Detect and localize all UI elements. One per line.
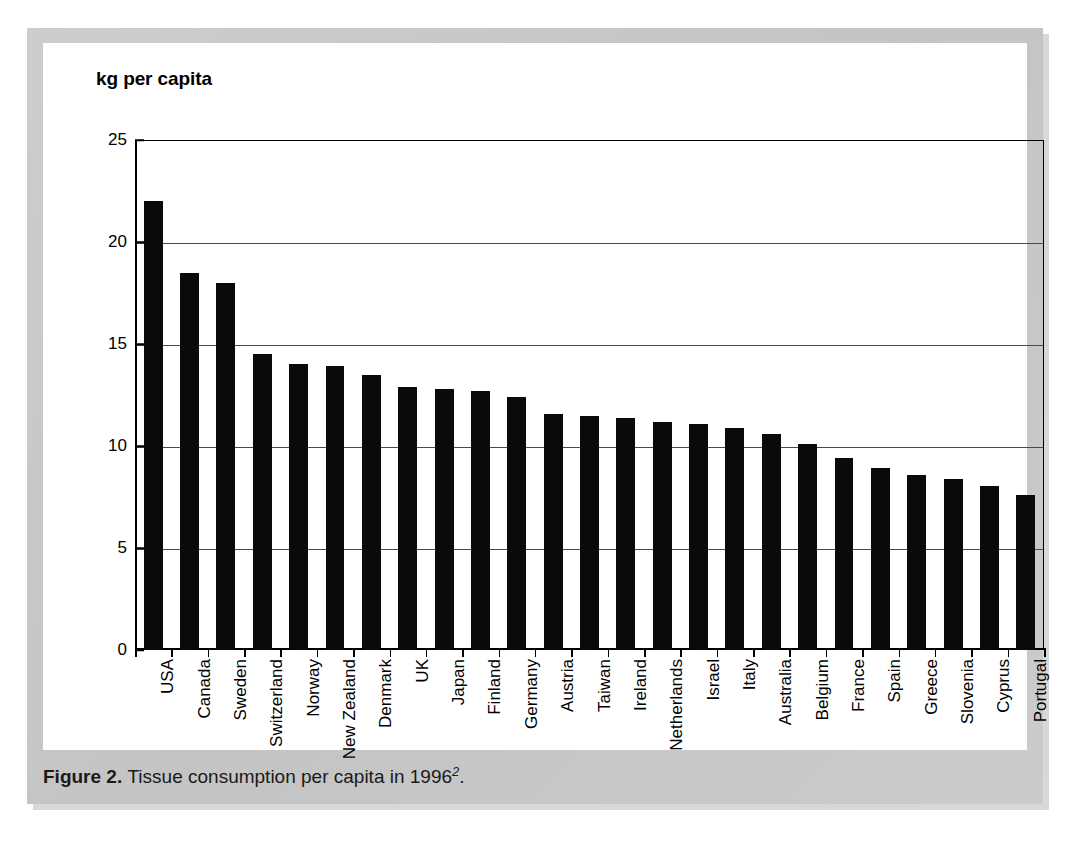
x-axis-label-norway: Norway [305,659,322,717]
bar-belgium [798,444,817,650]
x-axis-label-germany: Germany [523,659,540,729]
x-axis-label-switzerland: Switzerland [268,659,285,747]
x-tick-mark-8 [426,648,428,657]
x-tick-mark-20 [862,648,864,657]
x-tick-mark-23 [971,648,973,657]
x-tick-mark-1 [171,648,173,657]
x-axis-label-greece: Greece [923,659,940,715]
bar-ireland [616,418,635,650]
figure-frame: kg per capita 0510152025 USACanadaSweden… [27,28,1043,804]
x-axis-label-netherlands: Netherlands [668,659,685,751]
x-axis-label-france: France [850,659,867,712]
bar-japan [435,389,454,650]
x-axis-label-canada: Canada [196,659,213,719]
caption-label: Figure 2. [43,766,122,787]
x-tick-mark-6 [353,648,355,657]
x-axis-label-new-zealand: New Zealand [341,659,358,759]
y-tick-label-25: 25 [108,130,127,150]
x-axis-label-usa: USA [159,659,176,694]
x-axis-label-uk: UK [414,659,431,683]
bar-denmark [362,375,381,650]
bar-greece [907,475,926,650]
x-axis-label-portugal: Portugal [1032,659,1049,722]
bar-sweden [216,283,235,650]
x-tick-mark-14 [644,648,646,657]
x-axis-label-belgium: Belgium [814,659,831,720]
bar-israel [689,424,708,650]
bar-canada [180,273,199,650]
chart-panel: kg per capita 0510152025 USACanadaSweden… [43,43,1027,750]
x-tick-mark-21 [899,648,901,657]
x-tick-mark-2 [208,648,210,657]
bar-uk [398,387,417,650]
x-tick-mark-10 [499,648,501,657]
x-axis-label-italy: Italy [741,659,758,690]
caption-end: . [459,766,464,787]
x-axis-label-cyprus: Cyprus [995,659,1012,713]
bar-italy [725,428,744,650]
bar-austria [544,414,563,650]
figure-caption: Figure 2. Tissue consumption per capita … [43,764,1027,788]
bar-series [135,140,1044,650]
x-axis-label-denmark: Denmark [377,659,394,728]
x-axis-label-sweden: Sweden [232,659,249,720]
caption-text: Tissue consumption per capita in 1996 [127,766,452,787]
y-tick-label-5: 5 [118,538,127,558]
bar-slovenia [944,479,963,650]
bar-australia [762,434,781,650]
x-axis-label-japan: Japan [450,659,467,705]
x-tick-mark-4 [280,648,282,657]
y-tick-mark-0 [135,649,144,651]
x-axis-label-austria: Austria [559,659,576,712]
x-axis-label-ireland: Ireland [632,659,649,711]
x-tick-mark-18 [789,648,791,657]
x-axis-label-spain: Spain [886,659,903,702]
x-tick-mark-9 [462,648,464,657]
y-tick-label-10: 10 [108,436,127,456]
x-tick-mark-12 [571,648,573,657]
x-tick-mark-15 [680,648,682,657]
x-tick-mark-16 [717,648,719,657]
x-tick-mark-3 [244,648,246,657]
x-tick-mark-19 [826,648,828,657]
bar-netherlands [653,422,672,650]
x-tick-mark-13 [608,648,610,657]
bar-spain [871,468,890,650]
y-tick-mark-5 [135,547,144,549]
bar-usa [144,201,163,650]
x-tick-mark-5 [317,648,319,657]
bar-norway [289,364,308,650]
y-tick-mark-25 [135,139,144,141]
bar-france [835,458,854,650]
x-axis-label-slovenia: Slovenia [959,659,976,724]
y-axis-title: kg per capita [96,68,212,90]
x-axis-label-taiwan: Taiwan [596,659,613,712]
bar-germany [507,397,526,650]
x-tick-mark-25 [1044,648,1046,657]
bar-new-zealand [326,366,345,650]
x-tick-mark-24 [1008,648,1010,657]
y-tick-label-15: 15 [108,334,127,354]
bar-finland [471,391,490,650]
bar-switzerland [253,354,272,650]
bar-taiwan [580,416,599,650]
bar-portugal [1016,495,1035,650]
x-tick-mark-22 [935,648,937,657]
x-tick-mark-11 [535,648,537,657]
x-axis-tick-marks [135,648,1044,657]
y-tick-label-0: 0 [118,640,127,660]
y-tick-mark-10 [135,445,144,447]
x-tick-mark-17 [753,648,755,657]
y-tick-mark-20 [135,241,144,243]
x-tick-mark-7 [390,648,392,657]
y-axis-tick-labels: 0510152025 [83,140,127,650]
y-tick-mark-15 [135,343,144,345]
x-axis-label-finland: Finland [486,659,503,715]
y-tick-label-20: 20 [108,232,127,252]
bar-cyprus [980,486,999,650]
x-axis-label-australia: Australia [777,659,794,725]
x-axis-label-israel: Israel [705,659,722,701]
